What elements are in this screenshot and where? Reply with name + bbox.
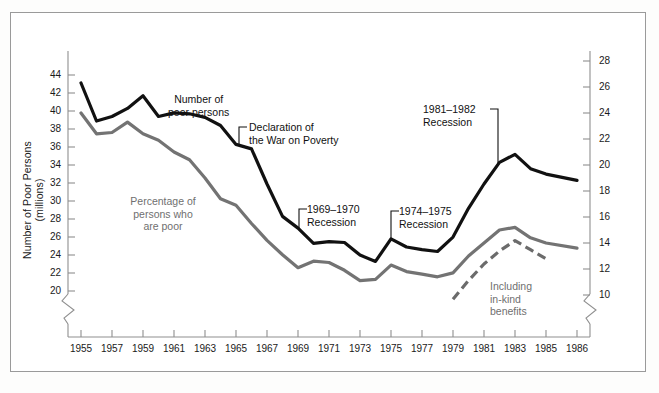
- xtick-1967: 1967: [250, 343, 284, 354]
- annotation-including-in-kind-benefits: Including in-kind benefits: [490, 280, 532, 318]
- xtick-1971: 1971: [312, 343, 346, 354]
- right-ytick-20: 20: [599, 159, 625, 170]
- annotation-recession-8182-line2: Recession: [423, 116, 476, 129]
- left-ytick-42: 42: [35, 87, 61, 98]
- annotation-inkind-line1: Including: [490, 280, 532, 293]
- xtick-1969: 1969: [281, 343, 315, 354]
- left-axis-ticks: [68, 75, 75, 291]
- xtick-1979: 1979: [436, 343, 470, 354]
- left-axis-title-line1: Number of Poor Persons: [21, 120, 33, 280]
- annotation-number-of-poor-persons: Number of poor persons: [168, 93, 229, 118]
- left-axis-title-line2: (millions): [33, 120, 45, 280]
- right-ytick-22: 22: [599, 133, 625, 144]
- right-ytick-28: 28: [599, 55, 625, 66]
- right-ytick-26: 26: [599, 81, 625, 92]
- xtick-1959: 1959: [126, 343, 160, 354]
- xtick-1963: 1963: [188, 343, 222, 354]
- right-ytick-16: 16: [599, 211, 625, 222]
- chart-frame: 44 42 40 38 36 34 32 30 28 26 24 22 20 2…: [10, 12, 646, 372]
- recession-6970-leader-line: [299, 209, 307, 228]
- xtick-1983: 1983: [498, 343, 532, 354]
- annotation-declaration-line2: the War on Poverty: [249, 134, 338, 147]
- xtick-1977: 1977: [405, 343, 439, 354]
- annotation-declaration-war-on-poverty: Declaration of the War on Poverty: [249, 121, 338, 146]
- annotation-recession-7475-line2: Recession: [399, 218, 452, 231]
- left-ytick-40: 40: [35, 105, 61, 116]
- xtick-1957: 1957: [95, 343, 129, 354]
- poverty-chart-figure: 44 42 40 38 36 34 32 30 28 26 24 22 20 2…: [0, 0, 659, 393]
- annotation-inkind-line3: benefits: [490, 305, 532, 318]
- left-ytick-20: 20: [35, 285, 61, 296]
- annotation-recession-1974-1975: 1974–1975 Recession: [399, 205, 452, 230]
- right-ytick-24: 24: [599, 107, 625, 118]
- xtick-1955: 1955: [64, 343, 98, 354]
- right-ytick-14: 14: [599, 237, 625, 248]
- bottom-axis-ticks: [81, 330, 577, 337]
- annotation-recession-8182-line1: 1981–1982: [423, 103, 476, 116]
- recession-7475-leader-line: [391, 211, 399, 239]
- right-ytick-10: 10: [599, 289, 625, 300]
- annotation-recession-7475-line1: 1974–1975: [399, 205, 452, 218]
- xtick-1985: 1985: [529, 343, 563, 354]
- chart-plot-area: [11, 13, 645, 371]
- annotation-recession-1969-1970: 1969–1970 Recession: [307, 203, 360, 228]
- annotation-percentage-line2: persons who: [109, 208, 217, 221]
- right-ytick-18: 18: [599, 185, 625, 196]
- right-axis-break-icon: [584, 294, 596, 324]
- annotation-percentage-line3: are poor: [109, 220, 217, 233]
- annotation-number-poor-line2: poor persons: [168, 106, 229, 119]
- xtick-1965: 1965: [219, 343, 253, 354]
- recession-8182-leader-line: [490, 109, 498, 163]
- left-axis-title: Number of Poor Persons (millions): [21, 120, 45, 280]
- xtick-1981: 1981: [467, 343, 501, 354]
- annotation-inkind-line2: in-kind: [490, 293, 532, 306]
- right-axis-ticks: [583, 61, 590, 295]
- annotation-percentage-who-are-poor: Percentage of persons who are poor: [109, 195, 217, 233]
- annotation-recession-6970-line2: Recession: [307, 216, 360, 229]
- series-number-of-poor-persons: [81, 83, 577, 261]
- xtick-1975: 1975: [374, 343, 408, 354]
- xtick-1986: 1986: [560, 343, 594, 354]
- declaration-leader-line: [239, 127, 247, 144]
- xtick-1961: 1961: [157, 343, 191, 354]
- left-ytick-44: 44: [35, 69, 61, 80]
- annotation-recession-1981-1982: 1981–1982 Recession: [423, 103, 476, 128]
- left-axis-break-icon: [62, 294, 74, 324]
- annotation-percentage-line1: Percentage of: [109, 195, 217, 208]
- right-ytick-12: 12: [599, 263, 625, 274]
- annotation-number-poor-line1: Number of: [168, 93, 229, 106]
- xtick-1973: 1973: [343, 343, 377, 354]
- annotation-recession-6970-line1: 1969–1970: [307, 203, 360, 216]
- annotation-declaration-line1: Declaration of: [249, 121, 338, 134]
